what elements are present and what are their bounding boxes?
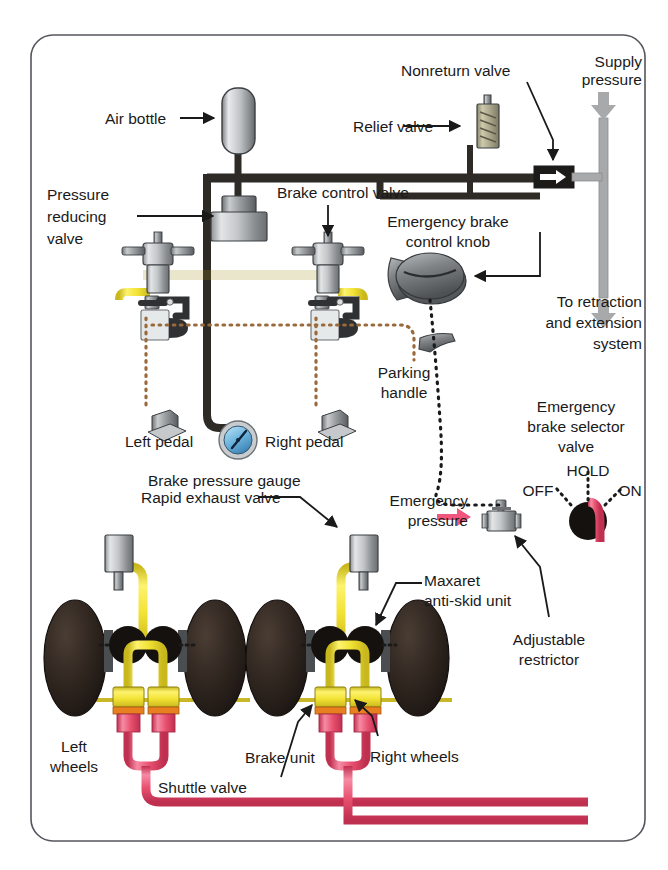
label-selector-on: ON: [618, 482, 641, 499]
diagram-canvas: Air bottle Pressure reducing valve Brake…: [0, 0, 668, 870]
label-air-bottle: Air bottle: [105, 110, 166, 127]
label-parking-handle-1: Parking: [378, 364, 431, 381]
brake-unit-left-inner: [113, 687, 144, 732]
label-adjustable-restrictor-1: Adjustable: [513, 631, 585, 648]
brake-unit-left-outer: [148, 687, 179, 732]
label-emergency-selector-2: brake selector: [527, 418, 624, 435]
label-left-wheels-2: wheels: [49, 758, 98, 775]
brake-unit-right-inner: [315, 687, 346, 732]
label-supply-pressure-2: pressure: [582, 71, 642, 88]
nonreturn-valve: [534, 166, 574, 188]
brake-pressure-gauge: [219, 421, 257, 459]
label-pressure-reducing-valve-3: valve: [47, 230, 83, 247]
brake-system-schematic: Air bottle Pressure reducing valve Brake…: [0, 0, 668, 870]
label-nonreturn-valve: Nonreturn valve: [401, 62, 510, 79]
label-supply-pressure-1: Supply: [595, 53, 643, 70]
label-selector-hold: HOLD: [566, 462, 609, 479]
label-right-wheels: Right wheels: [370, 748, 459, 765]
label-brake-control-valve: Brake control valve: [277, 184, 409, 201]
label-emergency-pressure-2: pressure: [408, 512, 468, 529]
label-pressure-reducing-valve-2: reducing: [47, 208, 106, 225]
label-parking-handle-2: handle: [381, 384, 428, 401]
label-pressure-reducing-valve-1: Pressure: [47, 186, 109, 203]
label-left-pedal: Left pedal: [125, 433, 193, 450]
label-left-wheels-1: Left: [61, 738, 88, 755]
label-to-retraction-2: and extension: [545, 314, 642, 331]
label-emergency-pressure-1: Emergency: [390, 492, 469, 509]
label-brake-unit: Brake unit: [245, 749, 315, 766]
emergency-brake-control-knob: [388, 253, 466, 304]
label-shuttle-valve: Shuttle valve: [158, 779, 247, 796]
label-rapid-exhaust-valve: Rapid exhaust valve: [141, 489, 281, 506]
label-adjustable-restrictor-2: restrictor: [519, 651, 579, 668]
label-to-retraction-3: system: [593, 335, 642, 352]
label-emergency-knob-2: control knob: [406, 233, 490, 250]
label-maxaret-1: Maxaret: [424, 572, 481, 589]
label-emergency-knob-1: Emergency brake: [387, 213, 508, 230]
label-to-retraction-1: To retraction: [557, 293, 642, 310]
air-bottle: [222, 88, 255, 154]
label-emergency-selector-3: valve: [558, 438, 594, 455]
label-emergency-selector-1: Emergency: [537, 398, 616, 415]
label-relief-valve: Relief valve: [353, 118, 433, 135]
label-selector-off: OFF: [523, 482, 554, 499]
label-brake-pressure-gauge: Brake pressure gauge: [148, 472, 301, 489]
label-right-pedal: Right pedal: [265, 433, 343, 450]
label-maxaret-2: anti-skid unit: [424, 592, 512, 609]
